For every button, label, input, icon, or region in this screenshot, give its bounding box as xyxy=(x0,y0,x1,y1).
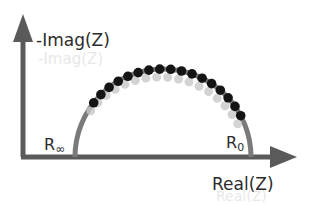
data-point xyxy=(216,85,226,95)
ghost-point xyxy=(195,82,204,91)
data-point xyxy=(230,102,240,112)
ghost-point xyxy=(228,110,237,119)
ghost-points xyxy=(86,73,242,129)
y-axis-arrowhead-icon xyxy=(13,14,33,42)
ghost-point xyxy=(233,119,242,128)
y-axis-label: -Imag(Z) xyxy=(36,30,110,50)
ghost-point xyxy=(152,73,161,82)
y-axis-label-reflection: -Imag(Z) xyxy=(38,50,103,68)
data-point xyxy=(113,77,123,87)
data-point xyxy=(123,72,133,82)
r-zero-subscript: 0 xyxy=(237,141,244,154)
data-point xyxy=(133,68,143,78)
data-point xyxy=(236,111,246,121)
data-point xyxy=(144,65,154,75)
data-point xyxy=(89,98,99,108)
data-point xyxy=(197,73,207,83)
data-point xyxy=(96,90,106,100)
ghost-point xyxy=(185,77,194,86)
ghost-point xyxy=(163,73,172,82)
ghost-point xyxy=(213,94,222,103)
data-point xyxy=(166,65,176,75)
r-infinity-marker: R∞ xyxy=(44,135,65,156)
data-point xyxy=(104,83,114,93)
data-point xyxy=(187,69,197,79)
impedance-arc xyxy=(75,69,251,157)
ghost-point xyxy=(141,74,150,83)
r-zero-label: R0 xyxy=(226,133,244,154)
y-axis xyxy=(13,14,33,157)
nyquist-diagram: -Imag(Z) -Imag(Z) Real(Z) Real(Z) R∞ R0 xyxy=(0,0,313,205)
x-axis-arrowhead-icon xyxy=(270,146,297,168)
r-infinity-label: R∞ xyxy=(44,135,65,156)
ghost-point xyxy=(86,106,95,115)
r-zero-marker: R0 xyxy=(226,133,244,154)
r-infinity-subscript: ∞ xyxy=(55,142,65,156)
data-point xyxy=(223,93,233,103)
ghost-point xyxy=(204,87,213,96)
data-point xyxy=(177,66,187,76)
x-axis-label-reflection: Real(Z) xyxy=(216,188,267,204)
ghost-point xyxy=(174,75,183,84)
data-point xyxy=(155,64,165,74)
data-point xyxy=(207,79,217,89)
ghost-point xyxy=(221,101,230,110)
